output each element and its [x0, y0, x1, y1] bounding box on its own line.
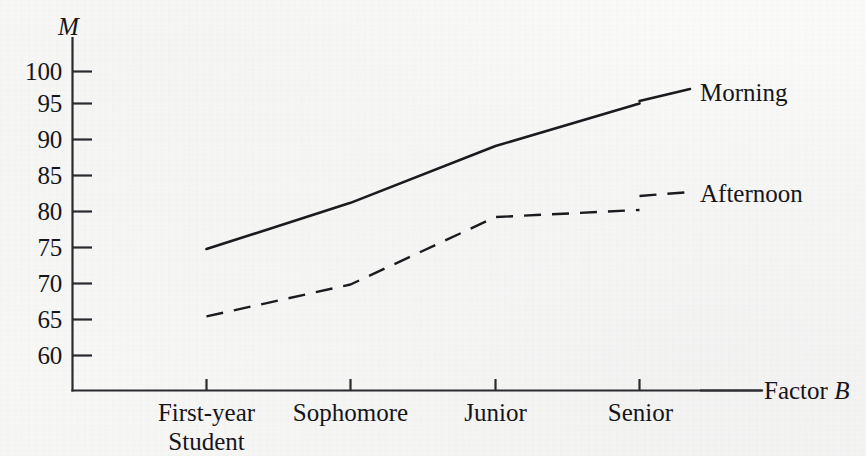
series-line-afternoon [207, 210, 640, 317]
legend-label-afternoon: Afternoon [700, 181, 803, 206]
y-tick-label-70: 70 [0, 271, 62, 296]
y-axis-ticks [73, 72, 93, 356]
x-tick-label-line-1: First-year [158, 399, 255, 426]
x-axis-title-variable: B [834, 377, 849, 404]
y-tick-label-80: 80 [0, 199, 62, 224]
y-tick-label-60: 60 [0, 343, 62, 368]
x-axis-ticks [207, 379, 640, 391]
y-tick-label-85: 85 [0, 163, 62, 188]
x-axis-title: Factor B [764, 378, 849, 403]
x-tick-label-line-2: Student [126, 429, 287, 454]
y-tick-label-95: 95 [0, 91, 62, 116]
y-tick-label-75: 75 [0, 235, 62, 260]
x-tick-label-sophomore: Sophomore [268, 400, 433, 425]
x-tick-label-junior: Junior [425, 400, 566, 425]
y-tick-label-65: 65 [0, 307, 62, 332]
x-axis-title-text: Factor [764, 377, 834, 404]
x-tick-label-senior: Senior [570, 400, 711, 425]
legend-swatch-morning [640, 89, 691, 101]
x-tick-label-first-year-student: First-year Student [126, 400, 287, 454]
legend-swatch-afternoon [640, 192, 691, 196]
series-line-morning [207, 103, 640, 249]
line-chart-plot-area [0, 0, 866, 456]
legend-label-morning: Morning [700, 80, 788, 105]
y-tick-label-90: 90 [0, 127, 62, 152]
y-axis-label: M [58, 14, 79, 39]
y-tick-label-100: 100 [0, 59, 62, 84]
